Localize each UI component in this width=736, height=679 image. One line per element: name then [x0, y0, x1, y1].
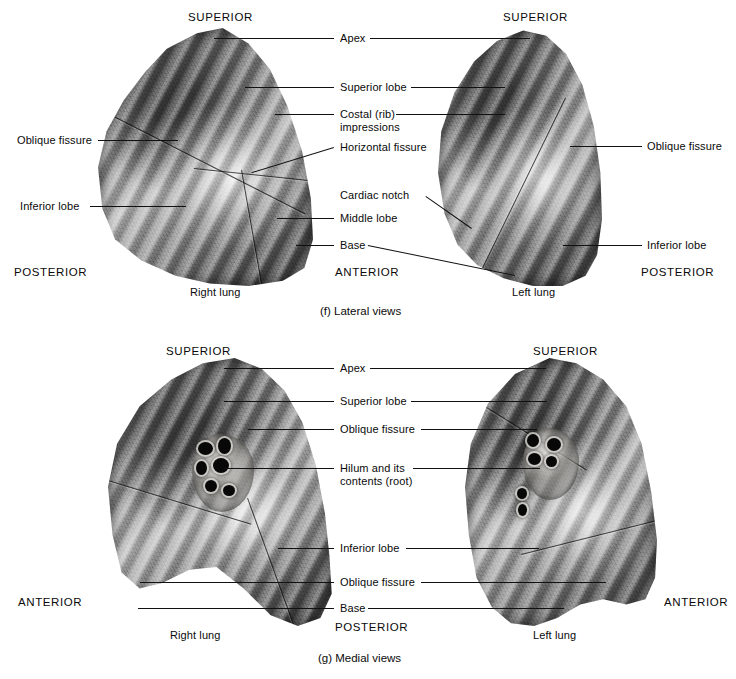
leader-superior-lobe-left — [224, 401, 334, 402]
label-horizontal-fissure: Horizontal fissure — [340, 141, 427, 154]
orientation-posterior-right: POSTERIOR — [641, 266, 714, 279]
lung-anatomy-figure: SUPERIOR SUPERIOR POSTERIOR ANTERIOR POS… — [0, 0, 736, 679]
specimen-left-lung-medial — [465, 358, 657, 626]
label-inferior-lobe-right: Inferior lobe — [647, 239, 706, 252]
label-oblique-fissure-lower: Oblique fissure — [340, 576, 415, 589]
panel-caption-lateral: (f) Lateral views — [320, 305, 401, 317]
label-oblique-fissure-upper: Oblique fissure — [340, 423, 415, 436]
specimen-right-lung-medial — [108, 358, 334, 626]
hilum-opening — [205, 480, 217, 492]
orientation-anterior-left: ANTERIOR — [18, 596, 82, 609]
specimen-name-left-lung: Left lung — [533, 629, 576, 642]
hilum-opening — [223, 485, 235, 496]
label-base: Base — [340, 602, 365, 615]
hilum-opening — [218, 438, 231, 454]
label-hilum-line2: contents (root) — [340, 475, 412, 488]
orientation-anterior-center: ANTERIOR — [335, 266, 399, 279]
label-cardiac-notch: Cardiac notch — [340, 189, 409, 202]
lung-edge-shadow — [98, 28, 313, 286]
label-middle-lobe: Middle lobe — [340, 212, 397, 225]
label-superior-lobe: Superior lobe — [340, 81, 407, 94]
hilum-opening — [517, 488, 527, 499]
orientation-anterior-right: ANTERIOR — [664, 596, 728, 609]
label-inferior-lobe-left: Inferior lobe — [20, 200, 79, 213]
leader-inferior-lobe-right — [406, 548, 539, 549]
leader-inferior-lobe-left — [90, 206, 186, 207]
panel-lateral-views: SUPERIOR SUPERIOR POSTERIOR ANTERIOR POS… — [0, 0, 736, 330]
orientation-superior-right: SUPERIOR — [503, 11, 568, 24]
orientation-superior-left: SUPERIOR — [166, 345, 231, 358]
leader-base-left — [296, 245, 334, 246]
orientation-posterior-left: POSTERIOR — [14, 266, 87, 279]
hilum-opening — [528, 453, 541, 465]
label-hilum-line1: Hilum and its — [340, 462, 405, 475]
leader-oblique-fissure-upper-right — [421, 429, 537, 430]
label-oblique-fissure-left: Oblique fissure — [17, 134, 92, 147]
hilum-opening — [196, 461, 207, 475]
orientation-superior-left: SUPERIOR — [188, 11, 253, 24]
leader-superior-lobe-left — [245, 87, 334, 88]
label-base: Base — [340, 239, 365, 252]
specimen-name-right-lung: Right lung — [190, 286, 241, 299]
leader-costal-impressions-left — [275, 114, 334, 115]
leader-oblique-fissure-lower-right — [421, 582, 606, 583]
leader-oblique-fissure-lower-left — [140, 582, 334, 583]
orientation-superior-right: SUPERIOR — [533, 345, 598, 358]
hilum-opening — [527, 434, 539, 447]
label-apex: Apex — [340, 362, 365, 375]
label-apex: Apex — [340, 32, 365, 45]
specimen-name-left-lung: Left lung — [512, 286, 555, 299]
leader-oblique-fissure-upper-left — [248, 429, 334, 430]
panel-caption-medial: (g) Medial views — [318, 652, 401, 664]
hilum-opening — [546, 456, 557, 467]
leader-hilum-left — [224, 468, 334, 469]
hilum-opening — [518, 504, 527, 516]
leader-base-right — [368, 608, 564, 609]
leader-apex-left — [224, 368, 334, 369]
leader-superior-lobe-right — [411, 401, 547, 402]
leader-apex-right — [370, 368, 546, 369]
leader-base-left — [138, 608, 334, 609]
panel-medial-views: SUPERIOR SUPERIOR ANTERIOR POSTERIOR ANT… — [0, 330, 736, 679]
label-inferior-lobe: Inferior lobe — [340, 542, 399, 555]
specimen-left-lung-lateral — [438, 28, 602, 286]
leader-oblique-fissure-right — [570, 146, 642, 147]
lung-edge-shadow — [438, 28, 602, 286]
specimen-name-right-lung: Right lung — [170, 629, 221, 642]
hilum-opening — [547, 438, 561, 451]
label-costal-impressions-line1: Costal (rib) — [340, 108, 395, 121]
label-oblique-fissure-right: Oblique fissure — [647, 140, 722, 153]
leader-hilum-right — [413, 468, 540, 469]
leader-oblique-fissure-left — [98, 140, 178, 141]
label-superior-lobe: Superior lobe — [340, 395, 407, 408]
orientation-posterior-center: POSTERIOR — [335, 621, 408, 634]
specimen-right-lung-lateral — [98, 28, 313, 286]
leader-apex-left — [214, 38, 334, 39]
leader-inferior-lobe-right — [563, 245, 642, 246]
hilum-opening — [198, 442, 213, 455]
hilum-opening — [213, 458, 229, 473]
label-costal-impressions-line2: impressions — [340, 121, 400, 134]
leader-middle-lobe — [277, 218, 334, 219]
leader-costal-impressions-right — [396, 114, 505, 115]
leader-superior-lobe-right — [411, 87, 505, 88]
leader-apex-right — [370, 38, 530, 39]
leader-inferior-lobe-left — [278, 548, 334, 549]
